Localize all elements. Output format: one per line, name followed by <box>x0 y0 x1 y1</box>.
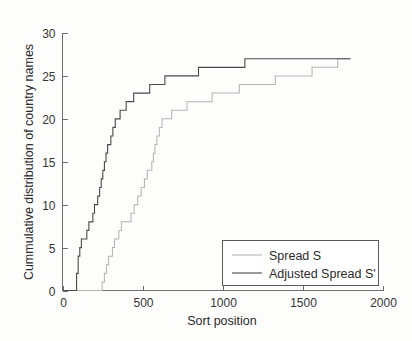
legend-label-spread-s: Spread S <box>269 249 321 263</box>
x-axis-ticks: 0500100015002000 <box>60 286 397 310</box>
x-tick-label: 1000 <box>210 296 237 310</box>
chart-svg: 051015202530 0500100015002000 Sort posit… <box>0 0 412 341</box>
chart-legend[interactable]: Spread S Adjusted Spread S' <box>223 241 379 286</box>
legend-label-adjusted-spread-s: Adjusted Spread S' <box>269 267 376 281</box>
x-axis-title: Sort position <box>187 314 257 328</box>
y-tick-label: 5 <box>49 242 56 256</box>
y-axis-title: Cummulative distribution of country name… <box>22 44 36 280</box>
y-axis-ticks: 051015202530 <box>42 27 67 299</box>
x-tick-label: 0 <box>60 296 67 310</box>
y-tick-label: 10 <box>42 199 56 213</box>
x-tick-label: 500 <box>133 296 153 310</box>
y-tick-label: 20 <box>42 113 56 127</box>
x-tick-label: 2000 <box>370 296 397 310</box>
y-tick-label: 30 <box>42 27 56 41</box>
y-tick-label: 15 <box>42 156 56 170</box>
chart-figure: 051015202530 0500100015002000 Sort posit… <box>0 0 412 341</box>
y-tick-label: 0 <box>49 285 56 299</box>
y-tick-label: 25 <box>42 70 56 84</box>
x-tick-label: 1500 <box>290 296 317 310</box>
